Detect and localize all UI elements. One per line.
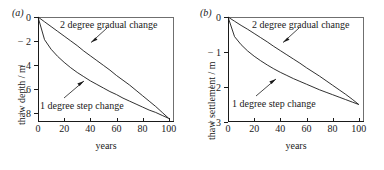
- panel-b-arrow-step: [256, 79, 276, 96]
- panel-a: (a) thaw depth / m 0 − 2 − 4 − 6 − 8: [0, 0, 192, 170]
- panel-b-xtick-label-5: 100: [344, 124, 374, 134]
- panel-b-plot-area: 0 − 1 − 2 − 3 0 20 40 60 80 100: [228, 17, 364, 122]
- panel-a-arrow-step: [64, 81, 84, 98]
- panel-b-ytick-label-1: − 1: [187, 48, 221, 58]
- panel-a-ytick-label-3: − 6: [0, 85, 31, 95]
- panel-a-x-axis-label: years: [38, 140, 174, 151]
- panel-a-arrow-gradual: [91, 28, 107, 43]
- figure-two-panel-thaw-plots: (a) thaw depth / m 0 − 2 − 4 − 6 − 8: [0, 0, 384, 170]
- panel-b-ytick-label-0: 0: [187, 13, 221, 23]
- panel-a-ytick-label-2: − 4: [0, 61, 31, 71]
- panel-a-annotation-gradual: 2 degree gradual change: [60, 20, 157, 30]
- panel-a-ytick-label-4: − 8: [0, 109, 31, 119]
- panel-b-annotation-gradual: 2 degree gradual change: [252, 20, 349, 30]
- panel-a-ytick-label-0: 0: [0, 13, 31, 23]
- panel-b-arrow-gradual: [283, 28, 299, 43]
- panel-a-plot-area: 0 − 2 − 4 − 6 − 8 0 20 40 60 80 100: [38, 17, 174, 122]
- panel-a-annotation-step: 1 degree step change: [40, 101, 124, 111]
- panel-b-annotation-step: 1 degree step change: [232, 99, 316, 109]
- panel-b-x-axis-label: years: [228, 140, 364, 151]
- panel-b-ytick-label-2: − 2: [187, 83, 221, 93]
- panel-a-ytick-label-1: − 2: [0, 37, 31, 47]
- panel-b: (b) thaw settlement / m 0 − 1 − 2 − 3: [192, 0, 384, 170]
- panel-a-xtick-label-5: 100: [154, 124, 184, 134]
